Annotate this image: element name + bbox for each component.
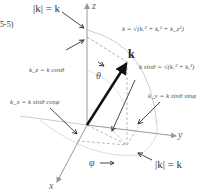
k-vector xyxy=(87,64,126,125)
k-vector-label: k xyxy=(128,47,135,62)
k-total-formula: k = √(kₓ² + kᵧ² + k_z²) xyxy=(122,25,184,33)
magnitude-label-bottom: |k| = k xyxy=(155,158,182,170)
y-axis-label: y xyxy=(178,129,182,140)
phi-label: φ xyxy=(89,157,95,168)
equator-arc xyxy=(40,120,157,156)
pointer-theta xyxy=(98,62,104,66)
x-axis xyxy=(57,125,87,182)
y-axis xyxy=(87,125,176,136)
ksin-theta-formula: k sinθ = √(kₓ² + kᵧ²) xyxy=(139,63,194,71)
pointer-kz xyxy=(66,40,84,50)
kx-formula: k_x = k sinθ cosφ xyxy=(10,98,59,106)
x-axis-label: x xyxy=(49,180,53,191)
kz-dashed xyxy=(87,37,127,62)
theta-label: θ xyxy=(96,70,101,81)
kz-formula: k_z = k cosθ xyxy=(29,66,64,74)
pointer-mag-top xyxy=(62,12,84,28)
pointer-mag-bottom xyxy=(138,153,152,160)
ky-formula: k_y = k sinθ sinφ xyxy=(148,92,196,100)
z-axis-label: z xyxy=(92,0,96,11)
magnitude-label-top: |k| = k xyxy=(33,2,60,14)
equation-number: 5-5) xyxy=(0,20,13,29)
pointer-ksin xyxy=(112,80,135,131)
